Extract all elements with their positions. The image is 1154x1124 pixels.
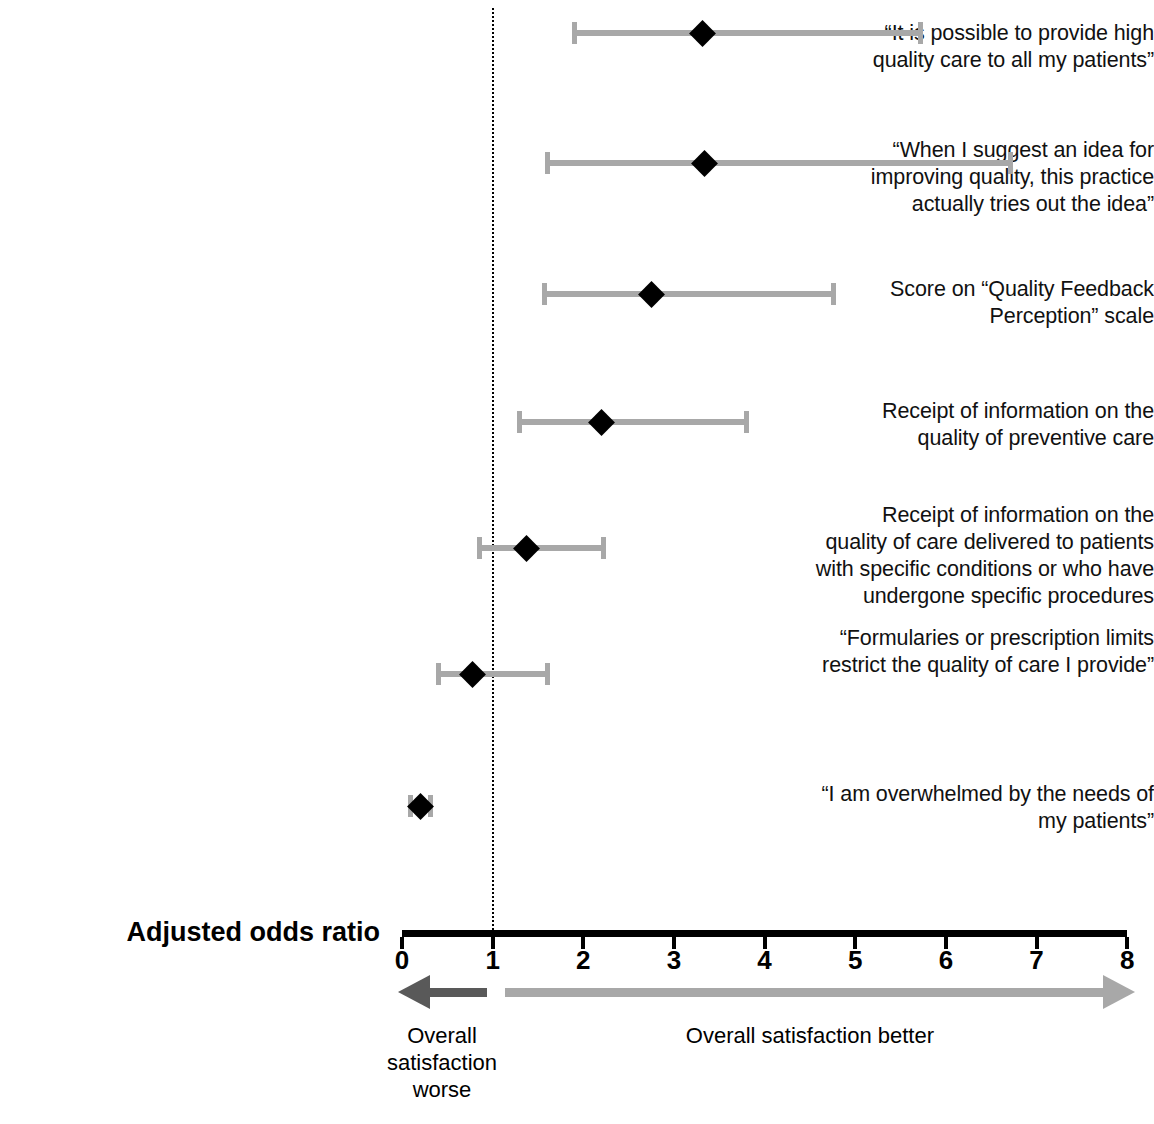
x-axis-tick-label-7: 7: [1017, 945, 1057, 975]
ci-cap-lower: [542, 283, 547, 305]
direction-caption-worse-line: worse: [342, 1076, 542, 1103]
arrow-head-better: [1103, 975, 1135, 1009]
ci-cap-lower: [517, 411, 522, 433]
x-axis-tick-label-0: 0: [382, 945, 422, 975]
reference-line-or-1: [492, 8, 494, 930]
point-estimate-marker: [513, 535, 540, 562]
row-label-5: “Formularies or prescription limitsrestr…: [754, 625, 1154, 679]
arrow-head-worse: [398, 975, 430, 1009]
direction-caption-better: Overall satisfaction better: [493, 1022, 1128, 1049]
ci-cap-lower: [572, 22, 577, 44]
point-estimate-marker: [459, 661, 486, 688]
arrow-shaft-better: [505, 988, 1104, 997]
confidence-interval-bar: [572, 30, 924, 36]
row-label-line: undergone specific procedures: [754, 583, 1154, 610]
x-axis-tick-label-5: 5: [835, 945, 875, 975]
x-axis-tick-label-1: 1: [473, 945, 513, 975]
row-label-line: restrict the quality of care I provide”: [754, 652, 1154, 679]
x-axis-title: Adjusted odds ratio: [110, 917, 380, 948]
ci-cap-upper: [1008, 152, 1013, 174]
row-label-line: quality of preventive care: [754, 425, 1154, 452]
confidence-interval-bar: [545, 160, 1013, 166]
point-estimate-marker: [588, 409, 615, 436]
confidence-interval-bar: [542, 291, 837, 297]
ci-cap-lower: [436, 663, 441, 685]
x-axis-tick-label-8: 8: [1107, 945, 1147, 975]
x-axis-line: [402, 930, 1127, 937]
forest-plot: “It is possible to provide highquality c…: [0, 0, 1154, 1124]
confidence-interval-bar: [436, 671, 549, 677]
row-label-2: Score on “Quality FeedbackPerception” sc…: [754, 276, 1154, 330]
row-label-line: Perception” scale: [754, 303, 1154, 330]
row-label-line: Score on “Quality Feedback: [754, 276, 1154, 303]
ci-cap-upper: [831, 283, 836, 305]
row-label-3: Receipt of information on thequality of …: [754, 398, 1154, 452]
direction-caption-worse-line: satisfaction: [342, 1049, 542, 1076]
row-label-line: improving quality, this practice: [754, 164, 1154, 191]
x-axis-tick-label-4: 4: [745, 945, 785, 975]
row-label-line: “I am overwhelmed by the needs of: [754, 781, 1154, 808]
x-axis-tick-label-2: 2: [563, 945, 603, 975]
row-label-line: Receipt of information on the: [754, 502, 1154, 529]
ci-cap-lower: [545, 152, 550, 174]
x-axis-tick-label-6: 6: [926, 945, 966, 975]
row-label-line: with specific conditions or who have: [754, 556, 1154, 583]
ci-cap-lower: [477, 537, 482, 559]
ci-cap-upper: [601, 537, 606, 559]
ci-cap-upper: [744, 411, 749, 433]
point-estimate-marker: [690, 20, 717, 47]
x-axis-tick-label-3: 3: [654, 945, 694, 975]
ci-cap-upper: [545, 663, 550, 685]
row-label-line: actually tries out the idea”: [754, 191, 1154, 218]
confidence-interval-bar: [477, 545, 606, 551]
row-label-line: quality of care delivered to patients: [754, 529, 1154, 556]
row-label-line: “Formularies or prescription limits: [754, 625, 1154, 652]
confidence-interval-bar: [517, 419, 749, 425]
row-label-line: Receipt of information on the: [754, 398, 1154, 425]
row-label-6: “I am overwhelmed by the needs ofmy pati…: [754, 781, 1154, 835]
row-label-4: Receipt of information on thequality of …: [754, 502, 1154, 610]
point-estimate-marker: [691, 150, 718, 177]
row-label-1: “When I suggest an idea forimproving qua…: [754, 137, 1154, 218]
point-estimate-marker: [638, 281, 665, 308]
ci-cap-upper: [918, 22, 923, 44]
row-label-line: quality care to all my patients”: [754, 47, 1154, 74]
arrow-shaft-worse: [428, 988, 487, 997]
row-label-line: my patients”: [754, 808, 1154, 835]
row-label-0: “It is possible to provide highquality c…: [754, 20, 1154, 74]
